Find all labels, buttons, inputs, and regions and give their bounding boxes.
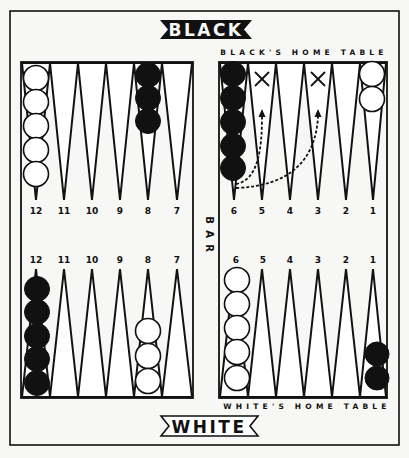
svg-text:6: 6 [231, 206, 237, 216]
arrow-6-to-3 [236, 116, 318, 188]
svg-text:12: 12 [30, 206, 43, 216]
svg-text:7: 7 [174, 255, 180, 265]
svg-text:10: 10 [86, 255, 99, 265]
move-arrows [236, 116, 318, 188]
svg-text:5: 5 [260, 255, 266, 265]
svg-text:6: 6 [233, 255, 239, 265]
bottom-left-point-labels: 12 11 10 9 8 7 [30, 255, 180, 265]
black-banner-label: BLACK [168, 20, 243, 40]
checkers-black-top-right-6 [221, 62, 246, 181]
checkers-white-top-left-12 [24, 66, 49, 187]
svg-text:A: A [204, 230, 215, 238]
checkers-black-top-left-8 [136, 63, 161, 134]
svg-text:1: 1 [370, 206, 376, 216]
checkers-white-bottom-right-6 [225, 268, 250, 391]
bottom-right-point-labels: 6 5 4 3 2 1 [233, 255, 376, 265]
white-banner: WHITE [161, 416, 258, 437]
svg-text:3: 3 [315, 255, 321, 265]
checkers-white-bottom-left-8 [136, 319, 161, 394]
svg-text:7: 7 [174, 206, 180, 216]
svg-text:R: R [204, 244, 215, 252]
svg-text:4: 4 [287, 206, 293, 216]
svg-text:B: B [204, 216, 215, 224]
svg-text:4: 4 [287, 255, 293, 265]
black-banner: BLACK [160, 20, 252, 40]
svg-text:11: 11 [58, 255, 71, 265]
svg-text:2: 2 [343, 255, 349, 265]
backgammon-board-diagram: BLACK BLACK'S HOME TABLE [0, 0, 409, 458]
svg-text:5: 5 [259, 206, 265, 216]
top-left-point-labels: 12 11 10 9 8 7 [30, 206, 180, 216]
top-right-point-labels: 6 5 4 3 2 1 [231, 206, 376, 216]
checkers-black-bottom-left-12 [25, 277, 50, 396]
svg-text:12: 12 [30, 255, 43, 265]
svg-text:9: 9 [117, 255, 123, 265]
svg-text:1: 1 [370, 255, 376, 265]
svg-text:10: 10 [86, 206, 99, 216]
svg-text:2: 2 [343, 206, 349, 216]
bar-label: B A R [204, 216, 215, 252]
white-banner-label: WHITE [171, 417, 246, 437]
svg-text:3: 3 [315, 206, 321, 216]
svg-text:9: 9 [117, 206, 123, 216]
black-home-table-label: BLACK'S HOME TABLE [220, 48, 387, 57]
white-home-table-label: WHITE'S HOME TABLE [223, 402, 390, 411]
svg-text:11: 11 [58, 206, 71, 216]
svg-text:8: 8 [145, 255, 151, 265]
svg-text:8: 8 [145, 206, 151, 216]
